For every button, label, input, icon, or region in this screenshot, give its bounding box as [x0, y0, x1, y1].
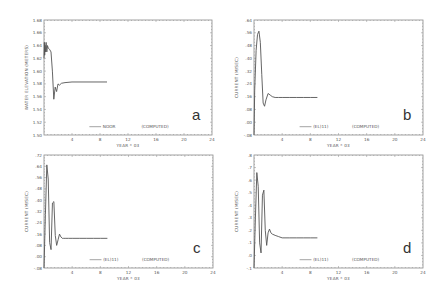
plot-frame: [254, 20, 423, 135]
y-tick-label: .16: [245, 94, 252, 99]
y-tick-label: .40: [245, 56, 252, 61]
x-tick-label: 8: [309, 270, 312, 275]
panel-letter: a: [192, 106, 201, 123]
x-tick-label: 4: [281, 137, 284, 142]
x-tick-label: 20: [181, 137, 187, 142]
plot-frame: [44, 155, 213, 268]
x-axis-title: YEAR * 03: [116, 276, 140, 281]
x-tick-label: 12: [336, 270, 342, 275]
y-tick-label: .56: [245, 30, 252, 35]
x-tick-label: 4: [71, 270, 74, 275]
panel-a: 1.681.661.641.621.601.581.561.541.521.50…: [24, 18, 215, 149]
x-tick-label: 20: [182, 270, 188, 275]
y-tick-label: .48: [245, 43, 252, 48]
x-tick-label: 8: [99, 270, 102, 275]
panel-d: .8.7.6.5.4.3.2.1.0-.1 4812162024 CURRENT…: [234, 153, 426, 282]
axis-ticks: [254, 155, 423, 268]
y-tick-label: .2: [248, 228, 252, 233]
y-tick-label: .72: [35, 153, 42, 158]
data-curve: [254, 173, 317, 268]
data-curve: [254, 31, 317, 135]
legend-series-label: (EL)11): [313, 257, 329, 262]
x-tick-label: 24: [210, 270, 216, 275]
y-tick-label: 1.54: [33, 107, 43, 112]
x-tick-label: 20: [392, 270, 398, 275]
x-axis-title: YEAR * 03: [116, 143, 140, 148]
data-curve: [44, 42, 107, 99]
y-tick-label: .24: [245, 81, 252, 86]
panel-letter: d: [403, 239, 411, 256]
panel-letter: c: [193, 239, 201, 256]
y-tick-label: 1.52: [33, 120, 43, 125]
x-axis-title: YEAR * 03: [326, 143, 350, 148]
y-tick-label: 1.58: [33, 81, 43, 86]
x-tick-label: 4: [281, 270, 284, 275]
x-tick-label: 4: [71, 137, 74, 142]
legend-computed-label: (COMPUTED): [142, 257, 169, 262]
x-tick-label: 16: [153, 137, 159, 142]
y-axis-title: CURRENT (M/SEC): [234, 191, 239, 232]
y-axis-title: CURRENT (M/SEC): [24, 191, 29, 232]
y-tick-label: 1.64: [33, 43, 43, 48]
x-tick-labels: 4812162024: [71, 137, 215, 142]
y-tick-label: .40: [35, 198, 42, 203]
y-tick-labels: .72.64.56.48.40.32.24.16.08.00-.08: [34, 153, 43, 271]
x-tick-label: 8: [309, 137, 312, 142]
y-tick-label: -.08: [34, 266, 43, 271]
figure: 1.681.661.641.621.601.581.561.541.521.50…: [0, 0, 446, 302]
x-tick-label: 16: [364, 270, 370, 275]
legend-computed-label: (COMPUTED): [352, 257, 379, 262]
y-axis-title: WATER ELEVATION (METERS): [24, 45, 29, 110]
axis-ticks: [44, 20, 212, 135]
plot-frame: [254, 155, 423, 268]
legend-series-label: (EL)11): [313, 124, 329, 129]
y-tick-label: 1.60: [33, 69, 43, 74]
panel-letter: b: [403, 106, 411, 123]
y-tick-label: .56: [35, 175, 42, 180]
x-tick-labels: 4812162024: [281, 137, 426, 142]
x-tick-label: 8: [99, 137, 102, 142]
axis-ticks: [44, 155, 213, 268]
y-tick-label: .4: [248, 203, 252, 208]
x-tick-label: 24: [420, 270, 426, 275]
y-tick-label: .00: [245, 120, 252, 125]
y-tick-label: .24: [35, 220, 42, 225]
legend-series-label: NOOR: [103, 124, 116, 129]
y-tick-label: -.08: [244, 133, 253, 138]
y-axis-title: CURRENT (M/SEC): [234, 57, 239, 98]
x-tick-label: 16: [364, 137, 370, 142]
x-tick-label: 20: [392, 137, 398, 142]
y-tick-label: .64: [245, 18, 252, 23]
y-tick-label: .32: [245, 69, 252, 74]
x-tick-labels: 4812162024: [281, 270, 426, 275]
y-tick-label: .6: [248, 178, 252, 183]
y-tick-label: .08: [245, 107, 252, 112]
axis-ticks: [254, 20, 423, 135]
panel-c: .72.64.56.48.40.32.24.16.08.00-.08 48121…: [24, 153, 216, 282]
y-tick-label: 1.62: [33, 56, 43, 61]
x-tick-label: 16: [154, 270, 160, 275]
x-tick-label: 24: [209, 137, 215, 142]
x-axis-title: YEAR * 03: [326, 276, 350, 281]
panel-b: .64.56.48.40.32.24.16.08.00-.08 48121620…: [234, 18, 426, 149]
y-tick-label: .8: [248, 153, 252, 158]
x-tick-label: 12: [125, 137, 131, 142]
y-tick-label: .5: [248, 190, 252, 195]
y-tick-label: 1.50: [33, 133, 43, 138]
y-tick-label: .48: [35, 186, 42, 191]
y-tick-label: .3: [248, 215, 252, 220]
y-tick-label: -.1: [246, 266, 252, 271]
x-tick-label: 12: [336, 137, 342, 142]
y-tick-label: .7: [248, 165, 252, 170]
y-tick-label: .08: [35, 243, 42, 248]
y-tick-label: 1.56: [33, 94, 43, 99]
y-tick-label: .32: [35, 209, 42, 214]
y-tick-label: 1.68: [33, 18, 43, 23]
y-tick-labels: 1.681.661.641.621.601.581.561.541.521.50: [33, 18, 43, 138]
y-tick-labels: .64.56.48.40.32.24.16.08.00-.08: [244, 18, 253, 138]
legend-series-label: (EL)11): [103, 257, 119, 262]
y-tick-label: .1: [248, 240, 252, 245]
legend-computed-label: (COMPUTED): [352, 124, 379, 129]
legend-computed-label: (COMPUTED): [141, 124, 168, 129]
x-tick-label: 12: [126, 270, 132, 275]
